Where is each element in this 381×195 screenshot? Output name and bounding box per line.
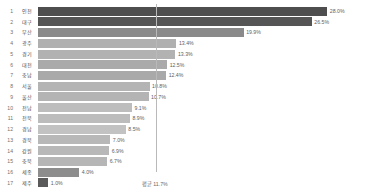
table-row: 15충북6.7%	[0, 156, 381, 166]
category-label: 울산	[16, 92, 38, 102]
value-label: 19.9%	[246, 27, 261, 37]
bar	[38, 125, 126, 134]
table-row: 14강원6.9%	[0, 146, 381, 156]
bar	[38, 92, 149, 101]
bar-track: 7.0%	[38, 135, 381, 145]
value-label: 13.4%	[179, 38, 194, 48]
table-row: 1인천28.0%	[0, 6, 381, 16]
value-label: 12.5%	[170, 60, 185, 70]
bar-track: 8.9%	[38, 113, 381, 123]
value-label: 6.9%	[112, 146, 124, 156]
average-label: 평균 11.7%	[142, 180, 168, 187]
bar	[38, 157, 107, 166]
rank-label: 5	[0, 49, 16, 59]
table-row: 17제주1.0%	[0, 178, 381, 188]
bar-track: 6.9%	[38, 146, 381, 156]
category-label: 서울	[16, 81, 38, 91]
bar-track: 9.1%	[38, 103, 381, 113]
value-label: 26.5%	[314, 17, 329, 27]
bar	[38, 50, 175, 59]
category-label: 대구	[16, 17, 38, 27]
rank-label: 17	[0, 178, 16, 188]
bar	[38, 135, 110, 144]
category-label: 광주	[16, 38, 38, 48]
bar-rows: 1인천28.0%2대구26.5%3부산19.9%4광주13.4%5경기13.3%…	[0, 6, 381, 188]
rank-label: 16	[0, 167, 16, 177]
value-label: 8.9%	[132, 113, 144, 123]
table-row: 5경기13.3%	[0, 49, 381, 59]
rank-label: 4	[0, 38, 16, 48]
bar	[38, 60, 167, 69]
bar	[38, 82, 150, 91]
bar	[38, 146, 109, 155]
value-label: 4.0%	[82, 167, 94, 177]
table-row: 2대구26.5%	[0, 17, 381, 27]
average-reference-line	[156, 4, 157, 172]
value-label: 10.8%	[152, 81, 167, 91]
category-label: 경기	[16, 49, 38, 59]
rank-label: 12	[0, 124, 16, 134]
rank-label: 3	[0, 27, 16, 37]
bar	[38, 28, 244, 37]
value-label: 28.0%	[330, 6, 345, 16]
table-row: 3부산19.9%	[0, 27, 381, 37]
table-row: 6대전12.5%	[0, 60, 381, 70]
rank-label: 2	[0, 17, 16, 27]
category-label: 부산	[16, 27, 38, 37]
bar-track: 13.4%	[38, 38, 381, 48]
table-row: 16세종4.0%	[0, 167, 381, 177]
table-row: 8서울10.8%	[0, 81, 381, 91]
bar-track: 10.7%	[38, 92, 381, 102]
bar	[38, 178, 48, 187]
bar-track: 6.7%	[38, 156, 381, 166]
category-label: 충북	[16, 156, 38, 166]
bar-track: 8.5%	[38, 124, 381, 134]
value-label: 10.7%	[151, 92, 166, 102]
bar-track: 28.0%	[38, 6, 381, 16]
bar-track: 10.8%	[38, 81, 381, 91]
bar-track: 4.0%	[38, 167, 381, 177]
category-label: 전남	[16, 103, 38, 113]
category-label: 대전	[16, 60, 38, 70]
table-row: 4광주13.4%	[0, 38, 381, 48]
category-label: 인천	[16, 6, 38, 16]
bar-track: 19.9%	[38, 27, 381, 37]
bar	[38, 103, 132, 112]
table-row: 7충남12.4%	[0, 70, 381, 80]
rank-label: 11	[0, 113, 16, 123]
category-label: 경남	[16, 124, 38, 134]
bar-track: 13.3%	[38, 49, 381, 59]
bar	[38, 168, 79, 177]
value-label: 1.0%	[51, 178, 63, 188]
rank-label: 13	[0, 135, 16, 145]
bar-track: 26.5%	[38, 17, 381, 27]
table-row: 13경북7.0%	[0, 135, 381, 145]
bar	[38, 7, 327, 16]
bar	[38, 114, 130, 123]
value-label: 13.3%	[178, 49, 193, 59]
rank-label: 14	[0, 146, 16, 156]
table-row: 11전북8.9%	[0, 113, 381, 123]
category-label: 경북	[16, 135, 38, 145]
value-label: 7.0%	[113, 135, 125, 145]
value-label: 6.7%	[110, 156, 122, 166]
rank-label: 6	[0, 60, 16, 70]
rank-label: 8	[0, 81, 16, 91]
bar	[38, 71, 166, 80]
category-label: 강원	[16, 146, 38, 156]
category-label: 세종	[16, 167, 38, 177]
bar-chart: 1인천28.0%2대구26.5%3부산19.9%4광주13.4%5경기13.3%…	[0, 0, 381, 195]
table-row: 9울산10.7%	[0, 92, 381, 102]
rank-label: 7	[0, 70, 16, 80]
bar-track: 12.4%	[38, 70, 381, 80]
rank-label: 15	[0, 156, 16, 166]
category-label: 충남	[16, 70, 38, 80]
category-label: 제주	[16, 178, 38, 188]
value-label: 9.1%	[135, 103, 147, 113]
bar-track: 12.5%	[38, 60, 381, 70]
category-label: 전북	[16, 113, 38, 123]
table-row: 10전남9.1%	[0, 103, 381, 113]
value-label: 12.4%	[169, 70, 184, 80]
bar-track: 1.0%	[38, 178, 381, 188]
rank-label: 10	[0, 103, 16, 113]
